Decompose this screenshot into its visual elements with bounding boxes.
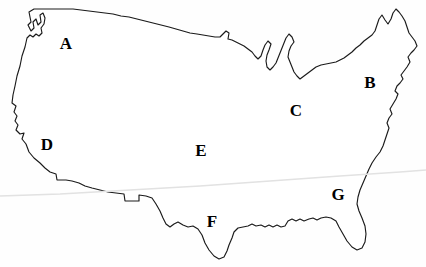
region-label-b: B [364, 74, 375, 91]
region-label-c: C [290, 102, 302, 119]
region-label-g: G [331, 186, 344, 203]
region-label-d: D [41, 136, 53, 153]
region-label-e: E [195, 142, 206, 159]
region-label-a: A [60, 35, 72, 52]
us-outline-map-figure: A B C D E F G [0, 0, 426, 267]
region-label-f: F [207, 213, 217, 230]
